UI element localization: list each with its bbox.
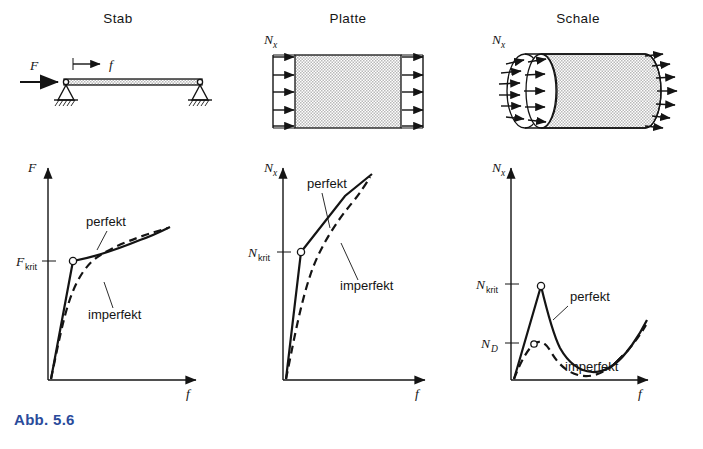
sketch-schale: N x — [491, 32, 677, 128]
chart-schale-annotation-perfekt: perfekt — [570, 289, 610, 304]
chart-platte-ytick-label: N — [247, 245, 258, 260]
stab-load-label: F — [29, 58, 39, 73]
chart-schale: N x f N krit N D perfekt imperfekt — [475, 160, 648, 401]
chart-stab-ytick-label: F — [15, 254, 25, 269]
chart-stab-xlabel: f — [186, 386, 192, 401]
chart-stab: F f F krit perfekt imperfekt — [15, 160, 196, 401]
chart-platte-xlabel: f — [415, 386, 421, 401]
platte-arrows-left — [273, 57, 294, 126]
column-title-stab: Stab — [103, 11, 132, 26]
stab-deflection-label: f — [109, 57, 115, 72]
platte-arrows-right — [402, 57, 423, 126]
chart-schale-ytick-label-d-sub: D — [490, 344, 498, 354]
chart-platte-bifurcation-marker — [297, 248, 304, 255]
chart-stab-annotation-perfekt: perfekt — [86, 214, 126, 229]
sketch-stab: F f — [20, 57, 212, 106]
chart-schale-critical-marker — [537, 282, 544, 289]
sketch-platte: N x — [263, 32, 423, 128]
column-title-schale: Schale — [556, 11, 600, 26]
chart-platte-annotation-perfekt: perfekt — [307, 176, 347, 191]
figure-caption: Abb. 5.6 — [14, 411, 75, 428]
chart-platte-ylabel-sub: x — [272, 168, 278, 178]
chart-schale-ytick-label-krit-sub: krit — [486, 285, 498, 295]
chart-platte: N x f N krit perfekt imperfekt — [247, 160, 425, 401]
chart-schale-xlabel: f — [638, 386, 644, 401]
chart-schale-ytick-label-krit: N — [475, 277, 486, 292]
chart-schale-annotation-imperfekt: imperfekt — [565, 359, 619, 374]
figure-abb-5-6: Stab Platte Schale F f — [0, 0, 703, 449]
chart-schale-ytick-label-d: N — [480, 336, 491, 351]
schale-load-label-sub: x — [500, 40, 506, 50]
column-title-platte: Platte — [330, 11, 367, 26]
figure-canvas: Stab Platte Schale F f — [0, 0, 703, 449]
chart-platte-ytick-label-sub: krit — [258, 253, 270, 263]
chart-schale-ylabel-sub: x — [500, 168, 506, 178]
chart-stab-ytick-label-sub: krit — [25, 262, 37, 272]
chart-stab-annotation-imperfekt: imperfekt — [88, 307, 142, 322]
chart-stab-bifurcation-marker — [69, 257, 76, 264]
platte-load-label-sub: x — [272, 40, 278, 50]
chart-schale-imperfect-peak-marker — [531, 341, 537, 347]
chart-platte-annotation-imperfekt: imperfekt — [340, 278, 394, 293]
chart-stab-ylabel: F — [27, 160, 37, 175]
